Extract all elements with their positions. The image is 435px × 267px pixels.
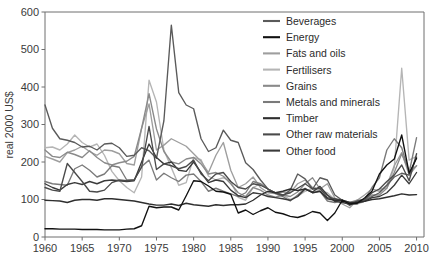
legend-label-timber: Timber bbox=[286, 112, 319, 124]
x-tick-label: 1995 bbox=[293, 242, 317, 254]
legend-label-energy: Energy bbox=[286, 31, 320, 43]
x-tick-label: 1965 bbox=[70, 242, 94, 254]
x-tick-label: 1975 bbox=[144, 242, 168, 254]
y-tick-label: 600 bbox=[21, 6, 39, 18]
y-tick-label: 100 bbox=[21, 193, 39, 205]
series-line-grains bbox=[45, 94, 417, 203]
series-line-fats-and-oils bbox=[45, 104, 417, 208]
x-tick-label: 2000 bbox=[330, 242, 354, 254]
legend-label-beverages: Beverages bbox=[286, 15, 336, 27]
x-axis-ticks: 1960196519701975198019851990199520002005… bbox=[33, 237, 429, 254]
legend-label-grains: Grains bbox=[286, 80, 317, 92]
x-tick-label: 2010 bbox=[404, 242, 428, 254]
x-tick-label: 1990 bbox=[256, 242, 280, 254]
legend-label-fats-and-oils: Fats and oils bbox=[286, 47, 346, 59]
x-tick-label: 1970 bbox=[107, 242, 131, 254]
chart-figure: 0100200300400500600 19601965197019751980… bbox=[0, 0, 435, 267]
chart-legend: BeveragesEnergyFats and oilsFertilisersG… bbox=[263, 15, 380, 157]
line-chart: 0100200300400500600 19601965197019751980… bbox=[0, 0, 435, 267]
y-tick-label: 300 bbox=[21, 118, 39, 130]
y-tick-label: 200 bbox=[21, 156, 39, 168]
x-tick-label: 1985 bbox=[219, 242, 243, 254]
y-tick-label: 500 bbox=[21, 43, 39, 55]
y-tick-label: 0 bbox=[33, 231, 39, 243]
x-tick-label: 2005 bbox=[367, 242, 391, 254]
legend-label-other-raw-materials: Other raw materials bbox=[286, 128, 378, 140]
legend-label-fertilisers: Fertilisers bbox=[286, 64, 332, 76]
y-axis-ticks: 0100200300400500600 bbox=[21, 6, 45, 243]
x-tick-label: 1960 bbox=[33, 242, 57, 254]
y-tick-label: 400 bbox=[21, 81, 39, 93]
y-axis-title: real 2000 US$ bbox=[3, 91, 15, 158]
legend-label-other-food: Other food bbox=[286, 145, 336, 157]
legend-label-metals-and-minerals: Metals and minerals bbox=[286, 96, 380, 108]
x-tick-label: 1980 bbox=[181, 242, 205, 254]
series-line-beverages bbox=[45, 25, 417, 205]
